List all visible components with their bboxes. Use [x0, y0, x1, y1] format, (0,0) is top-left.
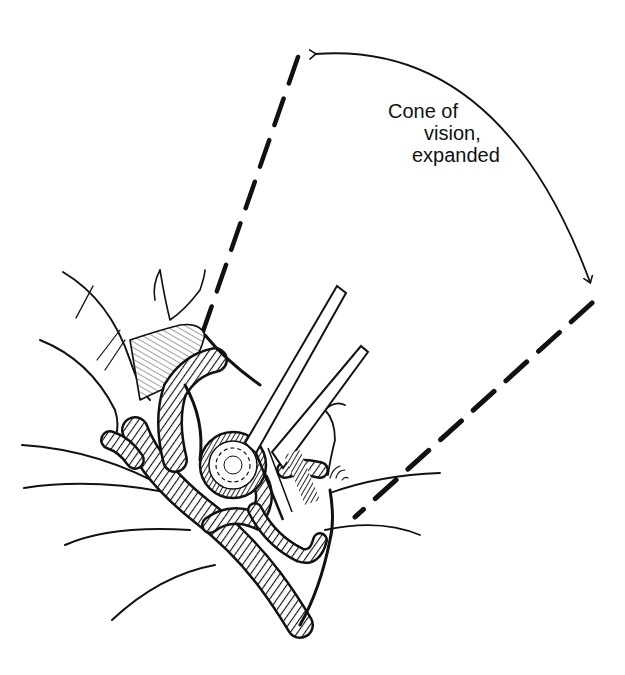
cone-of-vision-label: Cone of vision, expanded — [388, 100, 500, 166]
tissue-detail-right — [330, 466, 348, 480]
expansion-arc-arrow — [315, 53, 590, 282]
brain-gyri-contours-right — [325, 403, 440, 535]
label-line-2: vision, — [388, 122, 500, 144]
label-line-3: expanded — [388, 144, 500, 166]
cone-edge-left-dashed — [200, 57, 298, 340]
surgical-illustration: Cone of vision, expanded — [0, 0, 625, 675]
cone-edge-right-dashed — [355, 303, 592, 517]
illustration-canvas — [0, 0, 625, 675]
label-line-1: Cone of — [388, 100, 500, 122]
